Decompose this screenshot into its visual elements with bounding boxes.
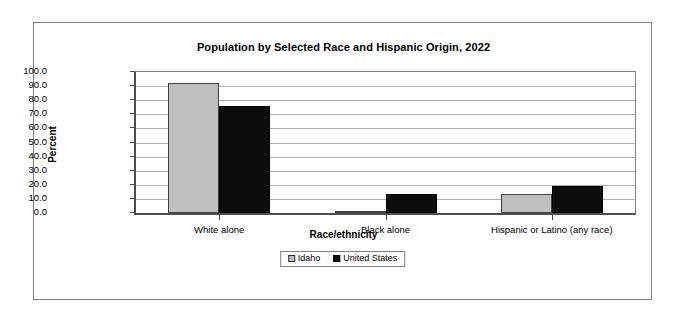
y-axis-tick-label: 100.0: [1, 66, 47, 76]
y-axis-tick-label: 80.0: [1, 94, 47, 104]
legend-swatch-icon: [333, 255, 340, 262]
bar-united-states-white-alone: [219, 106, 270, 213]
y-axis-tick-label: 10.0: [1, 193, 47, 203]
y-axis-tick-label: 30.0: [1, 165, 47, 175]
x-axis-tick-mark: [552, 215, 553, 220]
chart-title: Population by Selected Race and Hispanic…: [34, 41, 653, 53]
legend-entry-united-states: United States: [333, 254, 397, 263]
y-axis-tick-label: 0.0: [1, 207, 47, 217]
legend-label: Idaho: [298, 254, 321, 263]
bar-idaho-black-alone: [335, 211, 386, 213]
bar-united-states-hispanic-or-latino-any-race: [552, 186, 603, 213]
x-axis-tick-mark: [386, 215, 387, 220]
legend-entry-idaho: Idaho: [288, 254, 321, 263]
y-axis-tick-label: 70.0: [1, 109, 47, 119]
y-axis-label: Percent: [47, 105, 58, 185]
chart-legend: IdahoUnited States: [280, 251, 406, 267]
plot-area: White aloneBlack aloneHispanic or Latino…: [134, 71, 636, 215]
chart-figure: Population by Selected Race and Hispanic…: [33, 22, 652, 300]
y-axis-tick-label: 60.0: [1, 123, 47, 133]
y-axis-tick-label: 40.0: [1, 151, 47, 161]
bar-idaho-hispanic-or-latino-any-race: [501, 194, 552, 213]
y-axis-tick-label: 50.0: [1, 137, 47, 147]
legend-label: United States: [343, 254, 397, 263]
bar-idaho-white-alone: [168, 83, 219, 213]
y-axis-tick-label: 90.0: [1, 80, 47, 90]
bar-united-states-black-alone: [386, 194, 437, 213]
legend-swatch-icon: [288, 255, 295, 262]
y-axis-tick-label: 20.0: [1, 179, 47, 189]
x-axis-tick-mark: [219, 215, 220, 220]
x-axis-label: Race/ethnicity: [34, 229, 653, 240]
